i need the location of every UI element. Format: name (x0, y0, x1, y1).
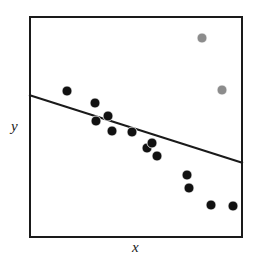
y-axis-label: y (11, 119, 18, 134)
data-point (184, 183, 194, 193)
data-point (197, 33, 207, 43)
data-point (90, 98, 100, 108)
data-point (228, 201, 238, 211)
data-point (206, 200, 216, 210)
data-point (107, 126, 117, 136)
data-point (182, 170, 192, 180)
x-axis-label: x (132, 240, 139, 255)
data-point (127, 127, 137, 137)
data-point (103, 111, 113, 121)
plot-canvas (0, 0, 262, 268)
data-point (62, 86, 72, 96)
data-point (147, 138, 157, 148)
scatter-plot-figure: y x (0, 0, 262, 268)
data-point (217, 85, 227, 95)
data-point (152, 151, 162, 161)
data-point (91, 116, 101, 126)
